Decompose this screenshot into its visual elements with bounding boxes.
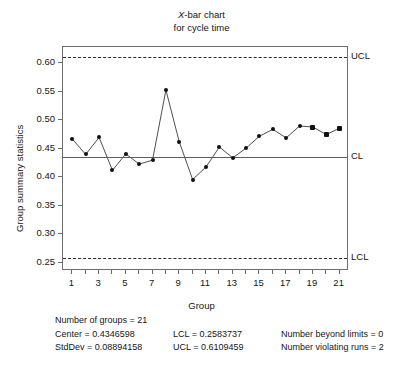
cl-label: CL (351, 150, 363, 161)
x-tick-label: 15 (248, 277, 268, 288)
footer-cell: Number violating runs = 2 (281, 341, 384, 355)
y-tick-label: 0.50 (21, 113, 55, 124)
data-point (191, 178, 195, 182)
x-tick-label: 7 (142, 277, 162, 288)
ucl-line (63, 57, 347, 58)
data-point (124, 152, 128, 156)
y-tick-label: 0.45 (21, 142, 55, 153)
footer-cell: LCL = 0.2583737 (173, 328, 281, 342)
y-tick-label: 0.25 (21, 256, 55, 267)
plot-inner (63, 47, 347, 269)
chart-title-line-1: X-bar chart (0, 9, 403, 22)
chart-statistics-footer: Number of groups = 21Center = 0.4346598L… (55, 314, 384, 355)
lcl-line (63, 258, 347, 259)
data-point (324, 132, 329, 137)
y-tick-label: 0.30 (21, 227, 55, 238)
data-point (231, 156, 235, 160)
footer-row: Center = 0.4346598LCL = 0.2583737Number … (55, 328, 384, 342)
x-tick-label: 11 (195, 277, 215, 288)
y-tick-label: 0.40 (21, 170, 55, 181)
data-point (164, 88, 168, 92)
footer-cell: StdDev = 0.08894158 (55, 341, 173, 355)
x-tick-label: 21 (329, 277, 349, 288)
x-tick-label: 1 (61, 277, 81, 288)
x-tick-label: 3 (88, 277, 108, 288)
y-tick-label: 0.60 (21, 56, 55, 67)
x-tick-label: 5 (115, 277, 135, 288)
data-point (151, 158, 155, 162)
footer-row: StdDev = 0.08894158UCL = 0.6109459Number… (55, 341, 384, 355)
chart-title-line-1-rest: -bar chart (184, 9, 225, 20)
footer-row: Number of groups = 21 (55, 314, 384, 328)
y-tick-label: 0.35 (21, 199, 55, 210)
lcl-label: LCL (351, 251, 368, 262)
data-point (310, 125, 315, 130)
ucl-label: UCL (351, 50, 370, 61)
x-tick-label: 17 (275, 277, 295, 288)
cl-line (63, 157, 347, 158)
data-point (204, 165, 208, 169)
chart-title-line-2: for cycle time (0, 22, 403, 35)
x-tick-label: 19 (302, 277, 322, 288)
x-tick-label: 13 (222, 277, 242, 288)
series-connector-lines (63, 47, 349, 271)
x-tick-label: 9 (168, 277, 188, 288)
plot-area (62, 46, 348, 270)
page-title: X-bar chart for cycle time (0, 9, 403, 34)
data-point (298, 124, 302, 128)
data-point (337, 126, 342, 131)
footer-cell: Number beyond limits = 0 (281, 328, 383, 342)
footer-cell: Center = 0.4346598 (55, 328, 173, 342)
x-axis-title: Group (0, 300, 403, 311)
footer-cell: Number of groups = 21 (55, 314, 173, 328)
footer-cell: UCL = 0.6109459 (173, 341, 281, 355)
y-tick-label: 0.55 (21, 85, 55, 96)
